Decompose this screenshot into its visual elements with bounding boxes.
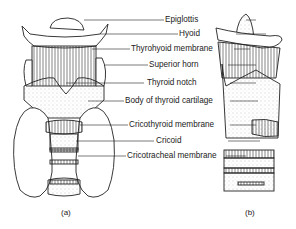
label-thyroid-notch: Thyroid notch [146, 78, 198, 87]
larynx-illustration [0, 0, 296, 229]
label-cricotracheal-membrane: Cricotracheal membrane [126, 151, 218, 160]
lateral-view [216, 14, 282, 191]
label-cricoid: Cricoid [155, 136, 182, 145]
label-body-of-thyroid-cartilage: Body of thyroid cartilage [124, 96, 214, 105]
label-hyoid: Hyoid [178, 29, 201, 38]
anterior-view [14, 18, 115, 197]
label-thyrohyoid-membrane: Thyrohyoid membrane [130, 44, 214, 53]
caption-a: (a) [61, 208, 71, 217]
label-epiglottis: Epiglottis [164, 15, 199, 24]
caption-b: (b) [245, 208, 255, 217]
label-superior-horn: Superior horn [148, 60, 200, 69]
label-cricothyroid-membrane: Cricothyroid membrane [128, 120, 215, 129]
